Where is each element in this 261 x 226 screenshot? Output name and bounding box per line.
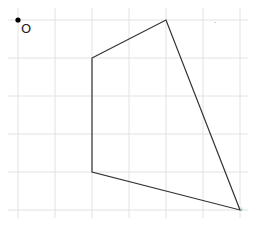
- stray-mark: i: [241, 206, 242, 212]
- origin-point-icon: [15, 17, 20, 22]
- grid-canvas: -i: [0, 0, 261, 226]
- origin-label: O: [21, 22, 31, 35]
- stray-mark: -: [214, 19, 216, 25]
- stray-marks: -i: [214, 19, 242, 212]
